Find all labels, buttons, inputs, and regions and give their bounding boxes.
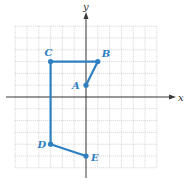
x-axis-label: x <box>178 92 184 103</box>
points: ABCDE <box>37 47 111 163</box>
point-d-marker <box>48 142 53 147</box>
x-axis-arrow-icon <box>169 95 176 100</box>
point-c-marker <box>48 59 53 64</box>
point-e-label: E <box>90 152 99 163</box>
y-axis-label: y <box>82 1 89 12</box>
point-a-label: A <box>71 80 80 91</box>
point-e-marker <box>83 153 88 158</box>
polygonal-path: ABCDE <box>37 47 111 163</box>
point-b-marker <box>95 59 100 64</box>
coordinate-plane: x y ABCDE <box>0 0 193 186</box>
point-b-label: B <box>101 48 110 59</box>
point-d-label: D <box>37 139 47 150</box>
point-c-label: C <box>45 47 53 58</box>
point-a-marker <box>83 83 88 88</box>
y-axis-arrow-icon <box>84 12 89 19</box>
